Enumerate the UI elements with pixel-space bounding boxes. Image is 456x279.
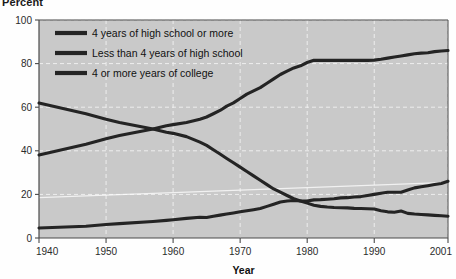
x-tick-label: 1970 [229,246,252,257]
legend-label: Less than 4 years of high school [92,47,243,59]
x-tick-label: 1960 [162,246,185,257]
x-tick-label: 1950 [95,246,118,257]
legend-label: 4 or more years of college [92,67,214,79]
x-tick-label: 1990 [363,246,386,257]
x-tick-label: 2001 [430,246,453,257]
line-chart: 020406080100 194019501960197019801990200… [0,0,456,279]
y-tick-label: 20 [21,189,33,200]
x-tick-label: 1980 [296,246,319,257]
y-tick-label: 60 [21,102,33,113]
y-tick-label: 40 [21,145,33,156]
y-tick-labels: 020406080100 [15,15,32,244]
chart-page: Percent 020406080100 1940195019601970198… [0,0,456,279]
y-tick-label: 100 [15,15,32,26]
x-axis-title: Year [232,264,254,276]
y-tick-label: 0 [26,233,32,244]
legend-label: 4 years of high school or more [92,27,233,39]
x-tick-label: 1940 [36,246,59,257]
y-tick-label: 80 [21,58,33,69]
x-tick-labels: 1940195019601970198019902001 [36,246,452,257]
